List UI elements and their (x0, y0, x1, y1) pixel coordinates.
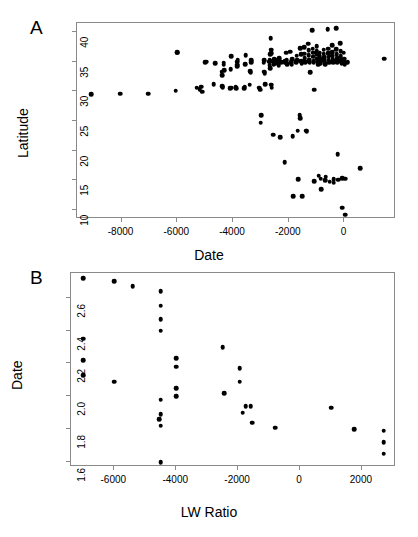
x-axis-tick (232, 218, 233, 222)
data-point (259, 113, 264, 118)
y-axis-tick-label: 2.0 (77, 402, 87, 416)
y-axis-tick (66, 362, 70, 363)
y-axis-tick-label: 2.4 (77, 336, 87, 350)
panel-b-label: B (30, 268, 43, 287)
data-point (310, 28, 315, 33)
panel-b-plot-frame (70, 272, 395, 466)
x-axis-tick (237, 466, 238, 470)
data-point (81, 276, 86, 281)
data-point (268, 66, 273, 71)
data-point (228, 67, 233, 72)
data-point (229, 54, 234, 59)
data-point (112, 279, 117, 284)
data-point (158, 460, 163, 465)
x-axis-tick (343, 218, 344, 222)
panel-a: A -8000-6000-4000-2000010152025303540 Da… (0, 0, 418, 268)
data-point (235, 58, 240, 63)
y-axis-tick-label: 1.8 (77, 435, 87, 449)
y-axis-tick (66, 395, 70, 396)
data-point (319, 187, 324, 192)
x-axis-tick (113, 466, 114, 470)
data-point (146, 91, 151, 96)
data-point (306, 41, 311, 46)
y-axis-tick-label: 2.2 (77, 369, 87, 383)
data-point (291, 194, 296, 199)
data-point (243, 53, 248, 58)
data-point (220, 345, 225, 350)
data-point (340, 205, 345, 210)
data-point (248, 404, 253, 409)
x-axis-tick (361, 466, 362, 470)
y-axis-tick (66, 428, 70, 429)
data-point (174, 386, 179, 391)
y-axis-tick-label: 15 (80, 185, 90, 196)
data-point (381, 440, 386, 445)
data-point (329, 406, 334, 411)
data-point (278, 135, 283, 140)
data-point (118, 91, 123, 96)
data-point (263, 82, 268, 87)
data-point (249, 71, 254, 76)
data-point (112, 379, 117, 384)
data-point (81, 358, 86, 363)
data-point (157, 417, 162, 422)
y-axis-tick (72, 120, 76, 121)
panel-b: B -6000-4000-2000020001.61.82.02.22.42.6… (0, 262, 418, 537)
data-point (235, 64, 240, 69)
data-point (158, 424, 163, 429)
x-axis-tick-label: -6000 (164, 227, 190, 237)
data-point (211, 82, 216, 87)
x-axis-tick-label: 2000 (350, 475, 372, 485)
data-point (220, 85, 225, 90)
data-point (269, 51, 274, 56)
y-axis-tick (72, 209, 76, 210)
data-point (249, 58, 254, 63)
x-axis-tick (121, 218, 122, 222)
panel-a-plot-frame (76, 22, 395, 218)
data-point (247, 82, 252, 87)
x-axis-tick (176, 218, 177, 222)
data-point (271, 132, 276, 137)
x-axis-tick-label: -2000 (224, 475, 250, 485)
panel-a-plot-area (77, 23, 394, 217)
data-point (343, 176, 348, 181)
panel-a-label: A (30, 18, 43, 37)
data-point (237, 379, 242, 384)
y-axis-tick-label: 10 (80, 215, 90, 226)
data-point (158, 328, 163, 333)
data-point (204, 59, 209, 64)
data-point (335, 152, 340, 157)
panel-a-xaxis-title: Date (0, 248, 418, 262)
x-axis-tick-label: -4000 (219, 227, 245, 237)
y-axis-tick-label: 35 (80, 66, 90, 77)
x-axis-tick (288, 218, 289, 222)
data-point (325, 27, 330, 32)
data-point (199, 84, 204, 89)
data-point (282, 160, 287, 165)
data-point (382, 56, 387, 61)
data-point (338, 41, 343, 46)
data-point (296, 177, 301, 182)
y-axis-tick-label: 1.6 (77, 468, 87, 482)
data-point (243, 62, 248, 67)
y-axis-tick-label: 20 (80, 155, 90, 166)
x-axis-tick-label: -8000 (108, 227, 134, 237)
data-point (308, 70, 313, 75)
y-axis-tick-label: 40 (80, 36, 90, 47)
data-point (323, 175, 328, 180)
y-axis-tick (66, 461, 70, 462)
data-point (288, 49, 293, 54)
data-point (158, 412, 163, 417)
y-axis-tick (72, 150, 76, 151)
y-axis-tick-label: 30 (80, 96, 90, 107)
panel-a-yaxis-title: Latitude (16, 108, 30, 158)
data-point (381, 429, 386, 434)
data-point (298, 116, 303, 121)
panel-b-xaxis-title: LW Ratio (0, 505, 418, 519)
data-point (273, 425, 278, 430)
y-axis-tick (66, 297, 70, 298)
data-point (262, 71, 267, 76)
data-point (158, 304, 163, 309)
y-axis-tick (72, 61, 76, 62)
x-axis-tick (175, 466, 176, 470)
